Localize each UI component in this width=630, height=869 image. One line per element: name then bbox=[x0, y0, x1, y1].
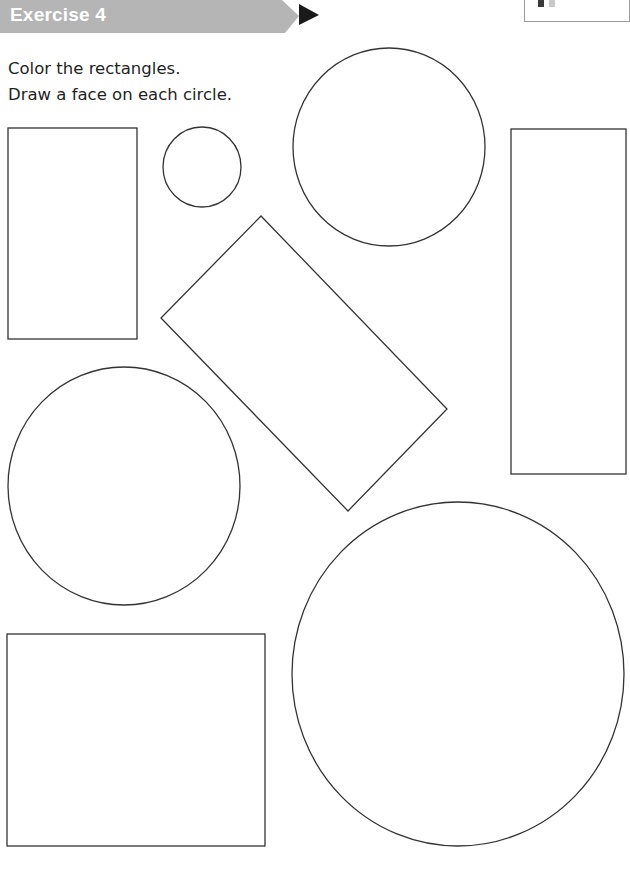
circle-middle-left[interactable] bbox=[8, 367, 240, 605]
rect-bottom-left[interactable] bbox=[7, 634, 265, 846]
circle-top[interactable] bbox=[293, 48, 485, 246]
rect-tall-right[interactable] bbox=[511, 129, 626, 474]
rect-tall-left[interactable] bbox=[8, 128, 137, 339]
shapes-canvas bbox=[0, 0, 630, 869]
circle-large[interactable] bbox=[292, 502, 624, 846]
circle-small[interactable] bbox=[163, 127, 241, 207]
